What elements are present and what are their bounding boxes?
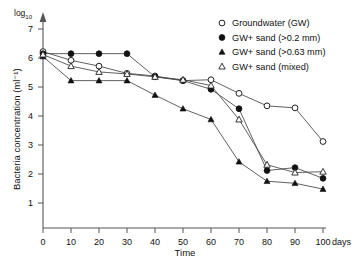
log-scale-label: log10 (14, 8, 33, 20)
y-tick-label: 1 (28, 198, 33, 208)
legend-marker-filled-triangle (219, 49, 225, 54)
x-tick-label: 50 (178, 237, 188, 247)
y-axis-arrowhead (40, 12, 47, 22)
x-tick-group: 0102030405060708090100 (40, 228, 330, 247)
data-point-marker-filled-triangle (264, 178, 270, 183)
data-point-marker-filled-circle (236, 106, 242, 112)
y-axis-title: Bacteria concentration (ml⁻¹) (11, 68, 22, 190)
legend-marker-open-triangle (219, 63, 225, 69)
data-point-marker-filled-triangle (152, 92, 158, 97)
data-point-marker-open-triangle (264, 161, 270, 167)
y-tick-label: 3 (28, 140, 33, 150)
x-tick-label: 30 (122, 237, 132, 247)
data-point-marker-open-circle (236, 90, 242, 96)
legend-label: GW+ sand (>0.63 mm) (232, 47, 325, 57)
y-tick-label: 6 (28, 53, 33, 63)
legend: Groundwater (GW)GW+ sand (>0.2 mm)GW+ sa… (219, 18, 326, 72)
legend-marker-filled-circle (219, 35, 225, 41)
x-tick-label: 100 (315, 237, 330, 247)
x-tick-label: 20 (94, 237, 104, 247)
legend-item: Groundwater (GW) (219, 18, 310, 28)
data-point-marker-filled-circle (68, 51, 74, 57)
y-tick-label: 5 (28, 82, 33, 92)
x-tick-label: 0 (40, 237, 45, 247)
legend-marker-open-circle (219, 20, 225, 26)
x-tick-label: 60 (206, 237, 216, 247)
bacteria-decay-chart: 1234567 0102030405060708090100 Bacteria … (0, 0, 362, 269)
y-tick-label: 7 (28, 24, 33, 34)
x-tick-label: 40 (150, 237, 160, 247)
series-line (43, 54, 323, 179)
legend-item: GW+ sand (>0.2 mm) (219, 33, 320, 43)
y-tick-label: 2 (28, 169, 33, 179)
x-tick-label: 80 (262, 237, 272, 247)
legend-label: Groundwater (GW) (232, 18, 310, 28)
data-point-marker-filled-triangle (236, 159, 242, 164)
legend-label: GW+ sand (>0.2 mm) (232, 33, 320, 43)
legend-item: GW+ sand (mixed) (219, 62, 309, 72)
data-point-marker-filled-circle (320, 175, 326, 181)
y-tick-label: 4 (28, 111, 33, 121)
chart-canvas: 1234567 0102030405060708090100 Bacteria … (0, 0, 362, 269)
x-tick-label: 70 (234, 237, 244, 247)
log-scale-subscript: 10 (25, 14, 32, 20)
data-point-marker-filled-circle (96, 51, 102, 57)
legend-item: GW+ sand (>0.63 mm) (219, 47, 325, 57)
data-point-marker-filled-circle (264, 168, 270, 174)
data-point-marker-filled-triangle (180, 106, 186, 111)
axes-group (40, 12, 326, 228)
legend-label: GW+ sand (mixed) (232, 62, 309, 72)
data-point-marker-open-circle (292, 105, 298, 111)
x-axis-unit-label: days (332, 237, 352, 247)
data-point-marker-open-circle (264, 103, 270, 109)
series-line (43, 55, 323, 173)
data-point-marker-filled-circle (124, 51, 130, 57)
x-tick-label: 10 (66, 237, 76, 247)
log-scale-base: log (14, 8, 26, 18)
x-axis-title: Time (175, 247, 196, 258)
data-point-marker-open-circle (320, 139, 326, 145)
x-tick-label: 90 (290, 237, 300, 247)
data-point-marker-open-triangle (320, 168, 326, 174)
series-3 (40, 53, 326, 191)
data-point-marker-open-triangle (68, 63, 74, 69)
